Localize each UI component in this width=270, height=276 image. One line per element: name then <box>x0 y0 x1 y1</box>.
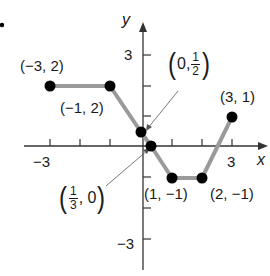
x-axis-arrow-icon <box>258 142 268 150</box>
leader-arrow-icon <box>146 124 152 131</box>
label-point-0-half: ( 0, 1 2 ) <box>167 49 211 79</box>
label-point-neg3-2: (−3, 2) <box>20 58 64 73</box>
point-neg1-2 <box>105 81 116 92</box>
fraction-one-half: 1 2 <box>191 51 200 77</box>
x-tick-label-neg3: −3 <box>33 154 50 169</box>
function-graph <box>0 0 270 276</box>
leader-line-third-0 <box>106 150 148 186</box>
label-point-3-1: (3, 1) <box>220 89 255 104</box>
point-1-neg1 <box>167 173 178 184</box>
point-2-neg1 <box>197 173 208 184</box>
y-axis-label: y <box>122 12 130 28</box>
label-point-third-0: ( 1 3 , 0 ) <box>58 183 106 213</box>
bullet-marker <box>0 23 4 27</box>
point-3-1 <box>227 112 238 123</box>
y-tick-label-3: 3 <box>124 47 132 62</box>
point-0-half <box>136 127 147 138</box>
x-axis-label: x <box>257 152 265 168</box>
label-point-neg1-2: (−1, 2) <box>60 100 104 115</box>
fraction-one-third: 1 3 <box>69 185 78 211</box>
leader-line-0-half <box>148 91 178 128</box>
y-axis-arrow-icon <box>139 22 147 32</box>
label-point-1-neg1: (1, −1) <box>144 186 188 201</box>
y-tick-label-neg3: −3 <box>117 236 134 251</box>
point-neg3-2 <box>45 81 56 92</box>
point-third-0 <box>146 141 157 152</box>
label-point-2-neg1: (2, −1) <box>210 186 254 201</box>
x-ticks <box>50 139 232 146</box>
x-tick-label-3: 3 <box>227 154 235 169</box>
